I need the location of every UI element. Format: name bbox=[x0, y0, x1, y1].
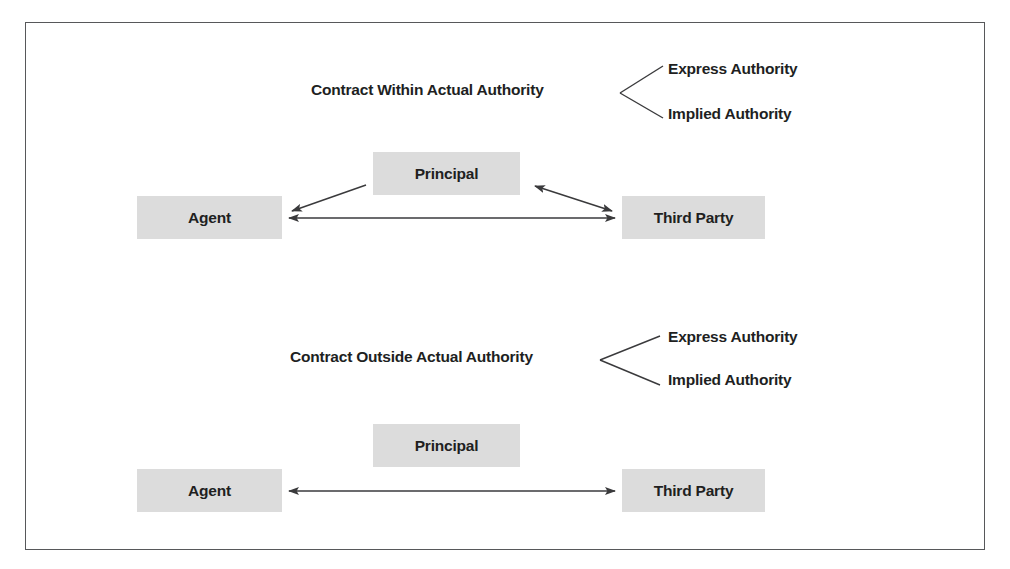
node-third-party-within: Third Party bbox=[622, 196, 765, 239]
arrow-principal-third-party bbox=[535, 186, 612, 211]
agency-authority-figure: Contract Within Actual Authority Express… bbox=[0, 0, 1010, 569]
bracket-outside-actual-authority bbox=[600, 336, 660, 385]
label-implied-authority-outside: Implied Authority bbox=[668, 371, 791, 389]
heading-contract-outside-actual-authority: Contract Outside Actual Authority bbox=[290, 348, 533, 366]
arrow-principal-to-agent bbox=[292, 185, 366, 211]
diagram-canvas: Contract Within Actual Authority Express… bbox=[0, 0, 1010, 569]
label-express-authority-within: Express Authority bbox=[668, 60, 798, 78]
node-principal-outside: Principal bbox=[373, 424, 520, 467]
node-principal-within: Principal bbox=[373, 152, 520, 195]
node-agent-within: Agent bbox=[137, 196, 282, 239]
node-third-party-outside: Third Party bbox=[622, 469, 765, 512]
node-agent-outside: Agent bbox=[137, 469, 282, 512]
bracket-within-actual-authority bbox=[620, 66, 663, 118]
label-implied-authority-within: Implied Authority bbox=[668, 105, 791, 123]
heading-contract-within-actual-authority: Contract Within Actual Authority bbox=[311, 81, 544, 99]
label-express-authority-outside: Express Authority bbox=[668, 328, 798, 346]
